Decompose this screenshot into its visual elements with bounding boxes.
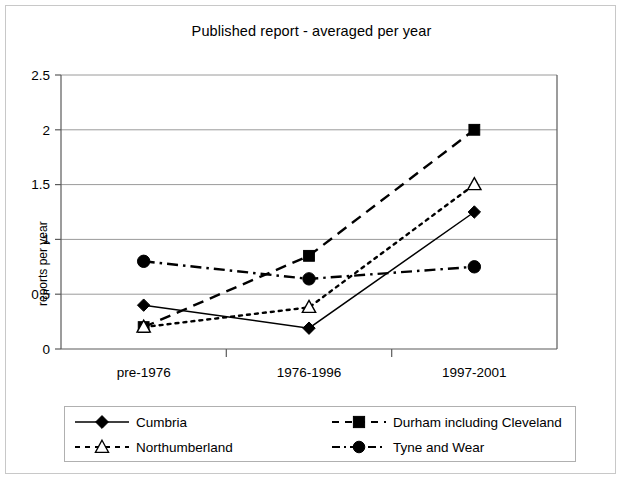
y-tick-label: 2.5 <box>31 68 50 83</box>
chart-legend: Cumbria Northumberland Durham including … <box>64 406 576 462</box>
data-point-marker <box>469 124 480 135</box>
legend-key-tyne-and-wear <box>330 437 388 457</box>
legend-key-durham <box>330 412 388 432</box>
y-tick-label: 1 <box>42 232 50 247</box>
legend-item-northumberland: Northumberland <box>73 435 233 459</box>
legend-item-durham: Durham including Cleveland <box>330 410 562 434</box>
legend-label: Cumbria <box>136 415 187 430</box>
legend-key-northumberland <box>73 437 131 457</box>
x-tick-label: 1997-2001 <box>442 365 507 380</box>
y-tick-label: 0 <box>42 342 50 357</box>
plot-area: 2.5 2 1.5 1 0.5 0 pre-1976 1976-1996 199… <box>6 6 617 475</box>
y-tick-label: 0.5 <box>31 287 50 302</box>
y-tick-label: 2 <box>42 123 50 138</box>
legend-label: Northumberland <box>136 440 233 455</box>
legend-key-cumbria <box>73 412 131 432</box>
x-tick-label: 1976-1996 <box>277 365 342 380</box>
x-tick-label: pre-1976 <box>117 365 171 380</box>
legend-label: Durham including Cleveland <box>393 415 562 430</box>
y-tick-label: 1.5 <box>31 177 50 192</box>
data-point-marker <box>137 255 149 267</box>
legend-label: Tyne and Wear <box>393 440 484 455</box>
y-tick-labels: 2.5 2 1.5 1 0.5 0 <box>31 68 50 357</box>
x-tick-labels: pre-1976 1976-1996 1997-2001 <box>117 365 507 380</box>
legend-item-cumbria: Cumbria <box>73 410 187 434</box>
legend-item-tyne-and-wear: Tyne and Wear <box>330 435 484 459</box>
data-point-marker <box>468 261 480 273</box>
y-tick-marks <box>55 75 61 349</box>
x-tick-marks <box>226 349 391 357</box>
chart-figure: Published report - averaged per year rep… <box>5 5 616 474</box>
data-point-marker <box>303 273 315 285</box>
data-point-marker <box>304 250 315 261</box>
